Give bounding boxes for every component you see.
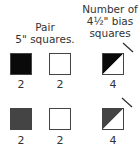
pair-header: Pair 5" squares. [15,21,75,45]
pair-header-line-1: Pair [15,21,75,33]
count-white-row-1: 2 [48,79,72,91]
half-square-triangle-row-2 [102,108,124,130]
bias-header-line-3: squares [80,27,139,39]
count-half-row-2: 4 [101,135,125,147]
white-square-row-1 [49,53,71,75]
pair-header-line-2: 5" squares. [15,33,75,45]
bias-header-line-2: 4½" bias [80,15,139,27]
half-square-triangle-row-1 [102,53,124,75]
bias-arrow-icon-row-1 [120,40,136,56]
count-half-row-1: 4 [101,79,125,91]
bias-arrow-icon-row-2 [119,95,135,111]
count-dark-row-1: 2 [9,79,33,91]
bias-header-line-1: Number of [80,3,139,15]
dark-square-row-2 [10,108,32,130]
dark-square-row-1 [10,53,32,75]
white-square-row-2 [49,108,71,130]
count-white-row-2: 2 [48,135,72,147]
bias-header: Number of 4½" bias squares [80,3,139,39]
count-dark-row-2: 2 [9,135,33,147]
